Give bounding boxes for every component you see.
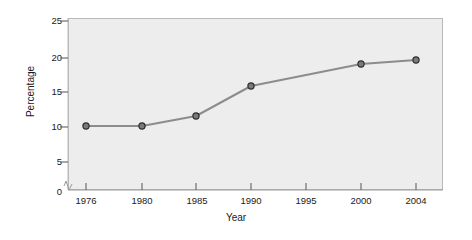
xtick-label-1995: 1995 bbox=[284, 196, 328, 206]
plot-area bbox=[68, 18, 443, 190]
ytick-label-25: 25 bbox=[36, 16, 62, 26]
y-axis-title: Percentage bbox=[25, 42, 36, 142]
xtick-label-2000: 2000 bbox=[339, 196, 383, 206]
xtick-label-1990: 1990 bbox=[229, 196, 273, 206]
xtick-label-1980: 1980 bbox=[120, 196, 164, 206]
x-axis-title: Year bbox=[0, 212, 472, 223]
ytick-label-10: 10 bbox=[36, 122, 62, 132]
ytick-label-5: 5 bbox=[36, 157, 62, 167]
xtick-label-1976: 1976 bbox=[64, 196, 108, 206]
ytick-label-15: 15 bbox=[36, 87, 62, 97]
ytick-label-20: 20 bbox=[36, 53, 62, 63]
xtick-label-2004: 2004 bbox=[394, 196, 438, 206]
ytick-label-0: 0 bbox=[36, 187, 62, 197]
xtick-label-1985: 1985 bbox=[175, 196, 219, 206]
chart-figure: 25 20 15 10 5 0 1976 1980 1985 1990 1995… bbox=[0, 0, 472, 240]
